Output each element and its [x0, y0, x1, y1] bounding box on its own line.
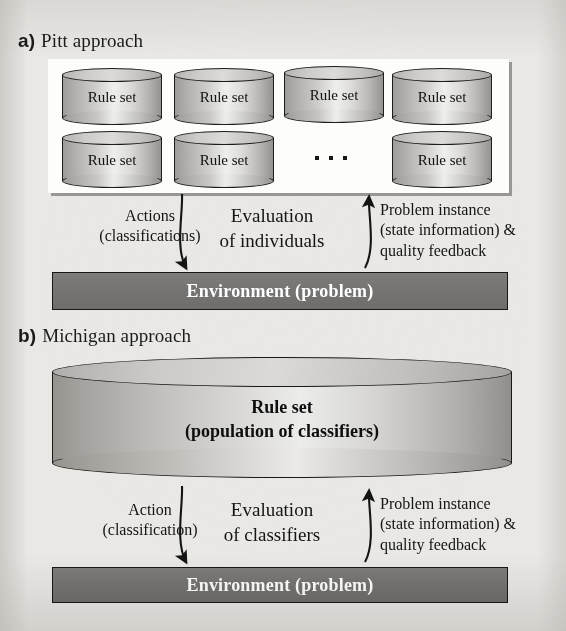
- pitt-feedback-line1: Problem instance: [380, 200, 560, 220]
- cylinder-top-cap: [52, 357, 512, 387]
- rule-set-label: Rule set: [62, 151, 162, 168]
- pitt-evaluation-line2: of individuals: [196, 229, 348, 254]
- michigan-rule-set-line2: (population of classifiers): [52, 420, 512, 444]
- ellipsis-dots: [315, 156, 347, 160]
- michigan-population-cylinder[interactable]: Rule set (population of classifiers): [52, 357, 512, 478]
- pitt-feedback-arrow: [365, 197, 371, 268]
- cylinder-bottom-cap: [392, 111, 492, 125]
- cylinder-bottom-cap: [62, 111, 162, 125]
- michigan-feedback-line2: (state information) &: [380, 514, 560, 534]
- rule-set-label: Rule set: [284, 86, 384, 103]
- dot: [315, 156, 319, 160]
- section-a-caption: a)Pitt approach: [18, 30, 143, 52]
- section-b-tag: b): [18, 325, 36, 346]
- rule-set-cylinder[interactable]: Rule set: [174, 131, 274, 188]
- pitt-evaluation-label: Evaluation of individuals: [196, 204, 348, 253]
- cylinder-bottom-cap: [392, 174, 492, 188]
- rule-set-label: Rule set: [174, 151, 274, 168]
- cylinder-bottom-cap: [174, 111, 274, 125]
- michigan-feedback-arrow: [365, 491, 371, 562]
- michigan-feedback-line3: quality feedback: [380, 535, 560, 555]
- rule-set-label: Rule set: [62, 88, 162, 105]
- environment-label: Environment (problem): [186, 281, 373, 302]
- michigan-evaluation-label: Evaluation of classifiers: [196, 498, 348, 547]
- rule-set-label: Rule set: [392, 88, 492, 105]
- rule-set-cylinder[interactable]: Rule set: [392, 131, 492, 188]
- rule-set-cylinder[interactable]: Rule set: [62, 131, 162, 188]
- cylinder-top-cap: [62, 68, 162, 82]
- pitt-feedback-label: Problem instance (state information) & q…: [380, 200, 560, 261]
- cylinder-top-cap: [284, 66, 384, 80]
- rule-set-label: Rule set: [392, 151, 492, 168]
- environment-bar[interactable]: Environment (problem): [52, 567, 508, 603]
- cylinder-top-cap: [62, 131, 162, 145]
- environment-bar[interactable]: Environment (problem): [52, 272, 508, 310]
- environment-label: Environment (problem): [186, 575, 373, 596]
- pitt-feedback-line3: quality feedback: [380, 241, 560, 261]
- pitt-evaluation-line1: Evaluation: [196, 204, 348, 229]
- michigan-evaluation-line2: of classifiers: [196, 523, 348, 548]
- cylinder-bottom-cap: [52, 448, 512, 478]
- cylinder-bottom-cap: [284, 109, 384, 123]
- cylinder-top-cap: [392, 131, 492, 145]
- michigan-feedback-line1: Problem instance: [380, 494, 560, 514]
- michigan-rule-set-line1: Rule set: [52, 396, 512, 420]
- rule-set-label: Rule set: [174, 88, 274, 105]
- michigan-feedback-label: Problem instance (state information) & q…: [380, 494, 560, 555]
- cylinder-top-cap: [174, 68, 274, 82]
- rule-set-cylinder[interactable]: Rule set: [284, 66, 384, 123]
- figure-root: a)Pitt approach Rule set Rule set Rule s…: [0, 0, 566, 631]
- section-b-caption: b)Michigan approach: [18, 325, 191, 347]
- rule-set-cylinder[interactable]: Rule set: [174, 68, 274, 125]
- section-a-tag: a): [18, 30, 35, 51]
- section-a-title: Pitt approach: [41, 30, 143, 51]
- section-b-title: Michigan approach: [42, 325, 191, 346]
- cylinder-bottom-cap: [174, 174, 274, 188]
- dot: [329, 156, 333, 160]
- cylinder-top-cap: [174, 131, 274, 145]
- dot: [343, 156, 347, 160]
- cylinder-bottom-cap: [62, 174, 162, 188]
- pitt-feedback-line2: (state information) &: [380, 220, 560, 240]
- cylinder-top-cap: [392, 68, 492, 82]
- rule-set-cylinder[interactable]: Rule set: [392, 68, 492, 125]
- michigan-evaluation-line1: Evaluation: [196, 498, 348, 523]
- michigan-rule-set-label: Rule set (population of classifiers): [52, 396, 512, 444]
- rule-set-cylinder[interactable]: Rule set: [62, 68, 162, 125]
